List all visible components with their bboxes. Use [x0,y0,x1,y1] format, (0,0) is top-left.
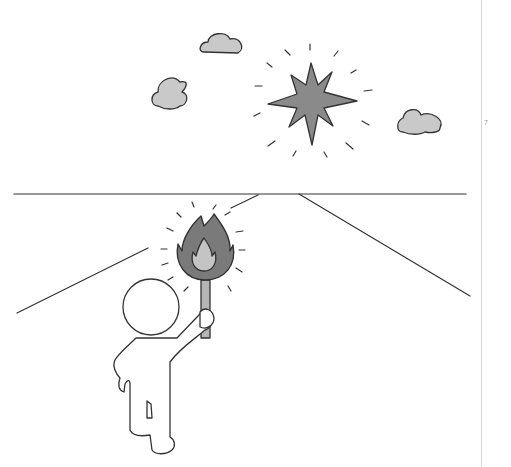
cloud-right-icon [398,110,441,135]
page-number: 7 [484,119,488,126]
star-icon [268,63,357,145]
cloud-left-icon [152,78,187,109]
road-right-edge [299,194,470,296]
cloud-top-icon [200,34,242,53]
figure-body [114,312,213,454]
figure-hand [200,309,214,328]
page-margin-rule [481,0,482,467]
figure [114,279,214,454]
road-left-edge-far [231,195,258,208]
figure-head [123,279,179,335]
illustration [0,0,481,467]
